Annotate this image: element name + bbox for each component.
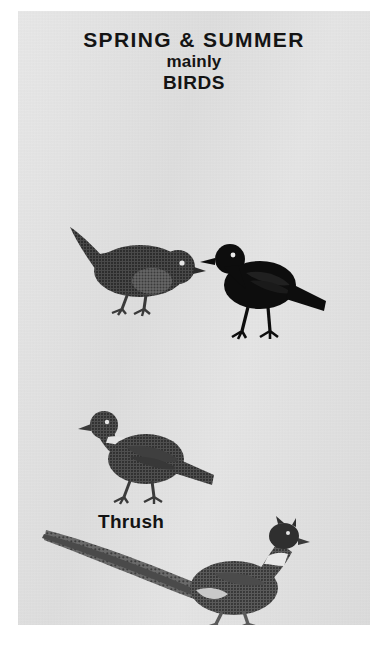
- page-heading: SPRING & SUMMER mainly BIRDS: [18, 11, 370, 94]
- figure-pigeon: Pigeon: [74, 401, 224, 511]
- heading-line-2: mainly: [18, 52, 370, 72]
- heading-line-3: BIRDS: [18, 72, 370, 94]
- pigeon-bird-illustration: [74, 401, 224, 511]
- pheasant-bird-illustration: [30, 516, 320, 625]
- blackbird-bird-illustration: [194, 231, 334, 351]
- scanned-page: SPRING & SUMMER mainly BIRDS: [0, 0, 386, 645]
- heading-line-1: SPRING & SUMMER: [18, 27, 370, 52]
- figure-pheasant: Pheasant: [30, 516, 320, 625]
- figure-thrush: Thrush: [54, 211, 214, 321]
- figure-blackbird: Backbird: [194, 231, 334, 351]
- thrush-bird-illustration: [54, 211, 214, 321]
- paper-sheet: SPRING & SUMMER mainly BIRDS: [18, 11, 370, 625]
